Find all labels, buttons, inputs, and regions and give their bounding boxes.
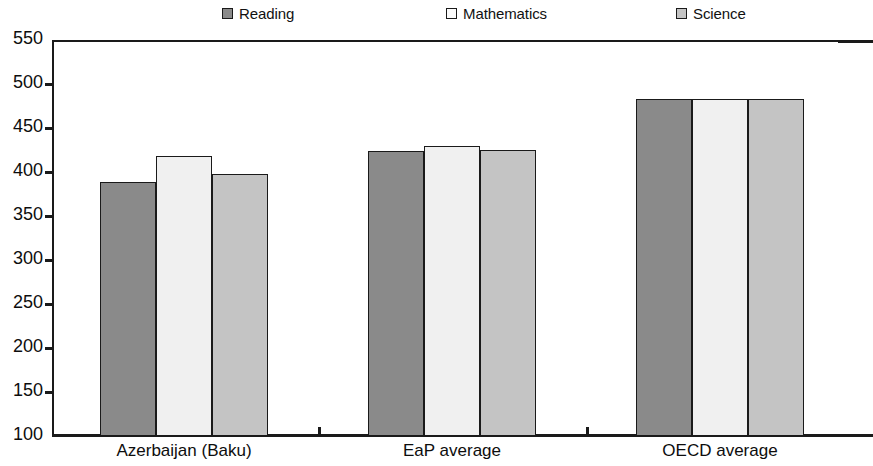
bar-mathematics-1 bbox=[424, 146, 480, 436]
y-axis-tick-mark bbox=[45, 259, 52, 262]
bar-science-2 bbox=[748, 99, 804, 436]
y-axis: 100150200250300350400450500550 bbox=[0, 40, 52, 436]
y-axis-tick-label: 250 bbox=[13, 293, 43, 311]
y-axis-tick-label: 500 bbox=[13, 73, 43, 91]
bar-reading-2 bbox=[636, 99, 692, 436]
chart-legend: Reading Mathematics Science bbox=[0, 0, 873, 30]
bar-science-0 bbox=[212, 174, 268, 436]
y-axis-tick-mark bbox=[45, 215, 52, 218]
y-axis-tick-label: 150 bbox=[13, 381, 43, 399]
x-axis-tick-mark bbox=[318, 427, 321, 436]
x-axis-category-label: OECD average bbox=[662, 441, 777, 460]
y-axis-tick-label: 450 bbox=[13, 117, 43, 135]
legend-swatch-science bbox=[676, 8, 687, 19]
y-axis-tick-mark bbox=[45, 303, 52, 306]
bar-mathematics-0 bbox=[156, 156, 212, 436]
y-axis-tick-label: 300 bbox=[13, 249, 43, 267]
legend-swatch-mathematics bbox=[446, 8, 457, 19]
x-axis-tick-mark bbox=[586, 427, 589, 436]
bar-chart: Reading Mathematics Science 100150200250… bbox=[0, 0, 873, 466]
y-axis-tick-label: 400 bbox=[13, 161, 43, 179]
legend-label-mathematics: Mathematics bbox=[463, 6, 547, 21]
y-axis-tick-mark bbox=[45, 347, 52, 350]
legend-item-reading: Reading bbox=[222, 6, 294, 21]
y-axis-tick-mark bbox=[45, 391, 52, 394]
bar-reading-0 bbox=[100, 182, 156, 436]
bar-mathematics-2 bbox=[692, 99, 748, 436]
legend-item-science: Science bbox=[676, 6, 746, 21]
y-axis-tick-mark bbox=[45, 83, 52, 86]
y-axis-tick-mark bbox=[45, 171, 52, 174]
bars-layer bbox=[52, 40, 873, 436]
bar-reading-1 bbox=[368, 151, 424, 436]
x-axis-category-label: Azerbaijan (Baku) bbox=[116, 441, 251, 460]
y-axis-tick-label: 550 bbox=[13, 29, 43, 47]
legend-label-science: Science bbox=[693, 6, 746, 21]
y-axis-tick-label: 200 bbox=[13, 337, 43, 355]
y-axis-tick-label: 350 bbox=[13, 205, 43, 223]
bar-science-1 bbox=[480, 150, 536, 436]
x-axis-category-label: EaP average bbox=[403, 441, 501, 460]
x-axis: Azerbaijan (Baku)EaP averageOECD average bbox=[0, 436, 873, 466]
legend-item-mathematics: Mathematics bbox=[446, 6, 547, 21]
legend-swatch-reading bbox=[222, 8, 233, 19]
y-axis-tick-mark bbox=[45, 127, 52, 130]
legend-label-reading: Reading bbox=[239, 6, 294, 21]
